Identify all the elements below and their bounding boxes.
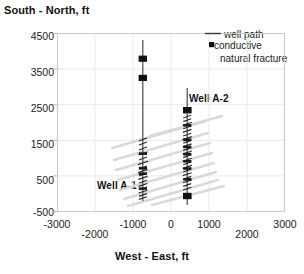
plot-svg <box>0 0 304 274</box>
legend-square-marker <box>209 42 214 47</box>
y-axis-ticks <box>53 34 57 212</box>
fracture-trend-lines <box>112 116 224 206</box>
chart-container: South - North, ft West - East, ft 4500 3… <box>0 0 304 274</box>
